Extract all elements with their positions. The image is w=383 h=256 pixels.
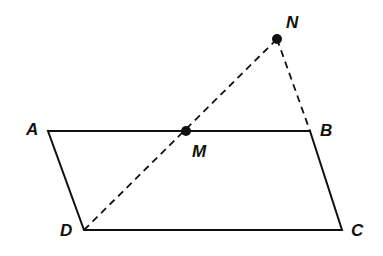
dashed-segment-nb (277, 39, 310, 131)
label-n: N (286, 14, 298, 31)
label-m: M (192, 143, 206, 160)
point-m-dot (181, 126, 191, 136)
diagram-canvas: A B C D M N (0, 0, 383, 256)
label-c: C (351, 222, 363, 239)
dashed-segment-dn (84, 39, 277, 230)
label-a: A (26, 121, 38, 138)
point-n-dot (272, 34, 282, 44)
label-d: D (60, 222, 72, 239)
label-b: B (320, 122, 332, 139)
